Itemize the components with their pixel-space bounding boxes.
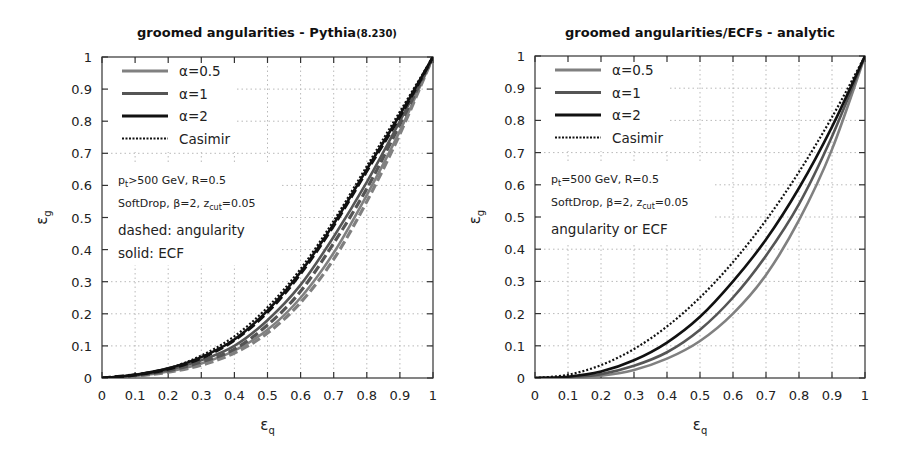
right-chart-panel: groomed angularities/ECFs - analytic00.1… (466, 25, 869, 436)
x-tick-label: 0.3 (624, 388, 645, 403)
x-tick-label: 0.2 (591, 388, 612, 403)
y-tick-label: 0.9 (504, 81, 525, 96)
annotation-text: pt​=500 GeV, R=0.5 (551, 173, 659, 188)
chart-title: groomed angularities/ECFs - analytic (565, 25, 835, 40)
annotation-text: dashed: angularity (118, 222, 245, 238)
legend-label: α=0.5 (612, 62, 654, 78)
y-tick-label: 0.2 (504, 307, 525, 322)
y-tick-label: 1 (517, 49, 525, 64)
y-tick-label: 0 (84, 371, 92, 386)
x-tick-label: 0.4 (224, 388, 245, 403)
legend-label: α=1 (612, 85, 641, 101)
x-tick-label: 0.3 (191, 388, 212, 403)
y-tick-label: 0.7 (504, 146, 525, 161)
y-tick-label: 0.4 (71, 243, 92, 258)
legend-label: α=1 (179, 86, 208, 102)
x-tick-label: 0.9 (390, 388, 411, 403)
x-tick-label: 0.5 (257, 388, 278, 403)
y-tick-label: 0.6 (71, 178, 92, 193)
x-tick-label: 0 (98, 388, 106, 403)
y-tick-label: 0.1 (504, 339, 525, 354)
chart-title: groomed angularities - Pythia(8.230) (137, 25, 397, 40)
y-tick-label: 0.5 (504, 210, 525, 225)
x-axis-label: εq (693, 416, 707, 436)
x-tick-label: 1 (861, 388, 869, 403)
y-tick-label: 0.8 (71, 114, 92, 129)
annotation-text: solid: ECF (118, 245, 184, 261)
y-axis-label: εg (33, 210, 53, 224)
x-tick-label: 0.4 (657, 388, 678, 403)
left-chart-panel: groomed angularities - Pythia(8.230)00.1… (33, 25, 437, 436)
y-tick-label: 0.8 (504, 113, 525, 128)
x-tick-label: 0.9 (822, 388, 843, 403)
x-tick-label: 0 (531, 388, 539, 403)
legend-label: Casimir (179, 131, 230, 147)
x-tick-label: 0.8 (789, 388, 810, 403)
annotation-text: SoftDrop, β=2, zcut​=0.05 (118, 197, 256, 212)
x-tick-label: 0.5 (690, 388, 711, 403)
y-tick-label: 0.4 (504, 242, 525, 257)
y-tick-label: 1 (84, 50, 92, 65)
annotation-text: angularity or ECF (551, 221, 668, 237)
x-tick-label: 0.1 (125, 388, 146, 403)
x-tick-label: 1 (429, 388, 437, 403)
y-tick-label: 0 (517, 371, 525, 386)
x-tick-label: 0.8 (356, 388, 377, 403)
y-tick-label: 0.6 (504, 178, 525, 193)
legend-label: Casimir (612, 130, 663, 146)
x-tick-label: 0.7 (323, 388, 344, 403)
annotation-text: pt​>500 GeV, R=0.5 (118, 174, 226, 189)
legend-label: α=0.5 (179, 63, 221, 79)
x-tick-label: 0.1 (558, 388, 579, 403)
y-tick-label: 0.3 (504, 274, 525, 289)
y-tick-label: 0.9 (71, 82, 92, 97)
x-axis-label: εq (260, 416, 274, 436)
legend-label: α=2 (179, 108, 208, 124)
x-tick-label: 0.7 (756, 388, 777, 403)
legend-label: α=2 (612, 107, 641, 123)
y-tick-label: 0.1 (71, 339, 92, 354)
y-tick-label: 0.2 (71, 307, 92, 322)
x-tick-label: 0.6 (290, 388, 311, 403)
annotation-text: SoftDrop, β=2, zcut​=0.05 (551, 196, 689, 211)
y-tick-label: 0.5 (71, 211, 92, 226)
y-tick-label: 0.3 (71, 275, 92, 290)
y-tick-label: 0.7 (71, 146, 92, 161)
x-tick-label: 0.2 (158, 388, 179, 403)
chart-canvas: groomed angularities - Pythia(8.230)00.1… (0, 0, 901, 460)
y-axis-label: εg (466, 210, 486, 224)
x-tick-label: 0.6 (723, 388, 744, 403)
